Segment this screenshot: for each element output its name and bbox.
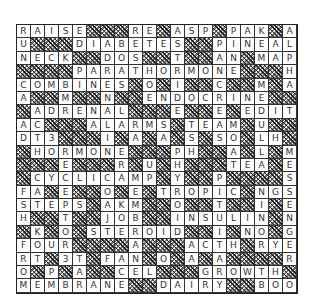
letter-cell[interactable]: A <box>269 52 283 65</box>
letter-cell[interactable]: B <box>59 79 73 92</box>
letter-cell[interactable]: O <box>157 65 171 78</box>
letter-cell[interactable]: R <box>115 159 129 172</box>
letter-cell[interactable]: D <box>255 105 269 118</box>
letter-cell[interactable]: P <box>213 38 227 51</box>
letter-cell[interactable]: L <box>101 119 115 132</box>
letter-cell[interactable]: I <box>227 92 241 105</box>
letter-cell[interactable]: S <box>157 119 171 132</box>
letter-cell[interactable]: O <box>31 79 45 92</box>
letter-cell[interactable]: E <box>59 159 73 172</box>
letter-cell[interactable]: M <box>59 92 73 105</box>
letter-cell[interactable]: A <box>213 253 227 266</box>
letter-cell[interactable]: D <box>171 92 185 105</box>
letter-cell[interactable]: O <box>283 279 297 292</box>
letter-cell[interactable]: H <box>269 132 283 145</box>
letter-cell[interactable]: M <box>255 79 269 92</box>
letter-cell[interactable]: O <box>59 226 73 239</box>
letter-cell[interactable]: L <box>227 212 241 225</box>
letter-cell[interactable]: W <box>241 266 255 279</box>
letter-cell[interactable]: E <box>143 25 157 38</box>
letter-cell[interactable]: O <box>227 132 241 145</box>
letter-cell[interactable]: P <box>73 65 87 78</box>
letter-cell[interactable]: E <box>255 92 269 105</box>
letter-cell[interactable]: E <box>73 25 87 38</box>
letter-cell[interactable]: F <box>17 239 31 252</box>
letter-cell[interactable]: C <box>17 79 31 92</box>
letter-cell[interactable]: N <box>241 226 255 239</box>
letter-cell[interactable]: H <box>227 239 241 252</box>
letter-cell[interactable]: U <box>255 119 269 132</box>
letter-cell[interactable]: P <box>45 266 59 279</box>
letter-cell[interactable]: R <box>171 65 185 78</box>
letter-cell[interactable]: P <box>283 52 297 65</box>
letter-cell[interactable]: I <box>171 212 185 225</box>
letter-cell[interactable]: O <box>185 92 199 105</box>
letter-cell[interactable]: R <box>59 146 73 159</box>
letter-cell[interactable]: C <box>101 172 115 185</box>
letter-cell[interactable]: E <box>115 146 129 159</box>
letter-cell[interactable]: S <box>59 25 73 38</box>
letter-cell[interactable]: B <box>255 279 269 292</box>
letter-cell[interactable]: N <box>283 212 297 225</box>
letter-cell[interactable]: A <box>283 79 297 92</box>
letter-cell[interactable]: N <box>157 92 171 105</box>
letter-cell[interactable]: R <box>283 253 297 266</box>
letter-cell[interactable]: M <box>45 79 59 92</box>
letter-cell[interactable]: T <box>213 199 227 212</box>
letter-cell[interactable]: T <box>157 186 171 199</box>
letter-cell[interactable]: K <box>115 199 129 212</box>
letter-cell[interactable]: H <box>269 266 283 279</box>
letter-cell[interactable]: P <box>227 25 241 38</box>
letter-cell[interactable]: C <box>227 186 241 199</box>
letter-cell[interactable]: N <box>241 38 255 51</box>
letter-cell[interactable]: S <box>185 25 199 38</box>
letter-cell[interactable]: P <box>199 186 213 199</box>
letter-cell[interactable]: C <box>199 239 213 252</box>
letter-cell[interactable]: D <box>171 226 185 239</box>
letter-cell[interactable]: P <box>171 146 185 159</box>
letter-cell[interactable]: T <box>283 105 297 118</box>
letter-cell[interactable]: R <box>17 253 31 266</box>
letter-cell[interactable]: H <box>171 159 185 172</box>
letter-cell[interactable]: F <box>101 253 115 266</box>
letter-cell[interactable]: C <box>45 52 59 65</box>
letter-cell[interactable]: T <box>255 266 269 279</box>
letter-cell[interactable]: N <box>87 105 101 118</box>
letter-cell[interactable]: E <box>241 105 255 118</box>
letter-cell[interactable]: O <box>255 226 269 239</box>
letter-cell[interactable]: I <box>213 186 227 199</box>
letter-cell[interactable]: D <box>101 52 115 65</box>
letter-cell[interactable]: S <box>129 52 143 65</box>
letter-cell[interactable]: I <box>73 79 87 92</box>
letter-cell[interactable]: O <box>171 199 185 212</box>
letter-cell[interactable]: E <box>101 79 115 92</box>
letter-cell[interactable]: G <box>283 226 297 239</box>
letter-cell[interactable]: A <box>157 132 171 145</box>
letter-cell[interactable]: I <box>241 212 255 225</box>
letter-cell[interactable]: O <box>227 266 241 279</box>
letter-cell[interactable]: P <box>143 172 157 185</box>
letter-cell[interactable]: O <box>269 279 283 292</box>
letter-cell[interactable]: A <box>101 38 115 51</box>
letter-cell[interactable]: H <box>283 65 297 78</box>
letter-cell[interactable]: E <box>115 279 129 292</box>
letter-cell[interactable]: T <box>185 119 199 132</box>
letter-cell[interactable]: N <box>101 92 115 105</box>
letter-cell[interactable]: E <box>115 226 129 239</box>
letter-cell[interactable]: B <box>59 279 73 292</box>
letter-cell[interactable]: A <box>73 266 87 279</box>
letter-cell[interactable]: I <box>157 226 171 239</box>
letter-cell[interactable]: G <box>199 266 213 279</box>
letter-cell[interactable]: A <box>227 146 241 159</box>
letter-cell[interactable]: 3 <box>59 253 73 266</box>
letter-cell[interactable]: S <box>171 38 185 51</box>
letter-cell[interactable]: E <box>31 52 45 65</box>
letter-cell[interactable]: R <box>17 25 31 38</box>
letter-cell[interactable]: T <box>227 159 241 172</box>
letter-cell[interactable]: P <box>59 199 73 212</box>
letter-cell[interactable]: E <box>283 199 297 212</box>
letter-cell[interactable]: T <box>73 253 87 266</box>
letter-cell[interactable]: C <box>31 119 45 132</box>
letter-cell[interactable]: A <box>283 25 297 38</box>
letter-cell[interactable]: M <box>17 279 31 292</box>
